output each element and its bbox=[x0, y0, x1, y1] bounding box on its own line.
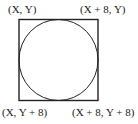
label-top-left: (X, Y) bbox=[8, 3, 36, 15]
label-top-right: (X + 8, Y) bbox=[80, 3, 126, 15]
inscribed-circle bbox=[19, 20, 98, 101]
label-bottom-left: (X, Y + 8) bbox=[2, 106, 47, 118]
label-bottom-right: (X + 8, Y + 8) bbox=[72, 106, 134, 118]
